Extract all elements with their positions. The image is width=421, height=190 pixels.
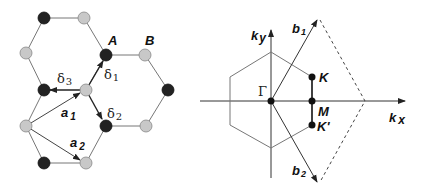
label-K: K [319, 70, 330, 85]
brillouin-zone-diagram: Γ K M K' ky kx b1 b2 [200, 20, 406, 182]
label-a1: a1 [61, 105, 76, 122]
M-point [309, 98, 316, 105]
label-kx: kx [389, 110, 406, 127]
gamma-point [268, 98, 275, 105]
label-M: M [318, 104, 330, 119]
label-delta2: δ2 [107, 106, 122, 122]
label-delta1: δ1 [104, 67, 119, 83]
label-Kprime: K' [317, 119, 330, 134]
K-point [309, 74, 316, 81]
label-b1: b1 [292, 21, 306, 37]
label-ky: ky [251, 28, 267, 45]
label-gamma: Γ [258, 84, 267, 99]
Kprime-point [309, 122, 316, 129]
graphene-diagram: A B δ1 δ2 δ3 a1 a2 Γ K M K' ky kx b1 b2 [0, 0, 421, 190]
honeycomb-lattice: A B δ1 δ2 δ3 a1 a2 [20, 12, 174, 169]
label-b2: b2 [292, 163, 306, 179]
label-B: B [145, 33, 154, 48]
nn-vectors [50, 61, 103, 119]
label-A: A [107, 33, 117, 48]
label-a2: a2 [70, 135, 85, 152]
label-delta3: δ3 [57, 71, 72, 87]
